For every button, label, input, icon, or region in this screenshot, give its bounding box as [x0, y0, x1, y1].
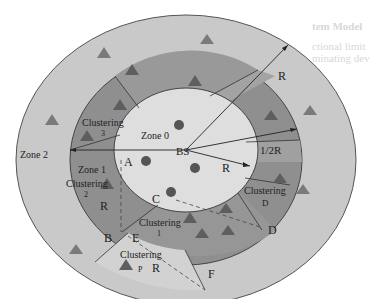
- cluster-p-title: Clustering: [120, 249, 162, 260]
- cluster-p-num: P: [138, 265, 143, 274]
- node-c: [166, 187, 176, 197]
- point-f: F: [208, 267, 215, 281]
- point-e: E: [132, 231, 139, 245]
- node-bs-right: [190, 163, 200, 173]
- radius-zone1-label: R: [100, 199, 108, 213]
- point-a: A: [124, 155, 133, 169]
- cluster-3-title: Clustering: [82, 117, 124, 128]
- point-b: B: [104, 231, 112, 245]
- base-station-label: BS: [176, 145, 189, 157]
- cluster-d-title: Clustering: [244, 185, 286, 196]
- zone-1-label: Zone 1: [78, 164, 106, 175]
- cluster-1-title: Clustering: [139, 217, 181, 228]
- cluster-1-num: 1: [157, 229, 161, 238]
- zone-2-label: Zone 2: [20, 149, 48, 160]
- cluster-d-num: D: [262, 198, 269, 208]
- radius-half-label: 1/2R: [260, 144, 282, 156]
- zone-0-label: Zone 0: [141, 130, 169, 141]
- cluster-2-title: Clustering: [66, 178, 108, 189]
- cluster-2-num: 2: [84, 190, 88, 199]
- radius-p-label: R: [152, 261, 160, 275]
- node-a: [141, 156, 151, 166]
- point-c: C: [152, 192, 160, 206]
- radius-inner-label: R: [222, 161, 230, 175]
- cluster-3-num: 3: [101, 129, 105, 138]
- point-d: D: [268, 223, 277, 237]
- node-zone0-top: [174, 120, 184, 130]
- radius-outer-label: R: [278, 69, 286, 83]
